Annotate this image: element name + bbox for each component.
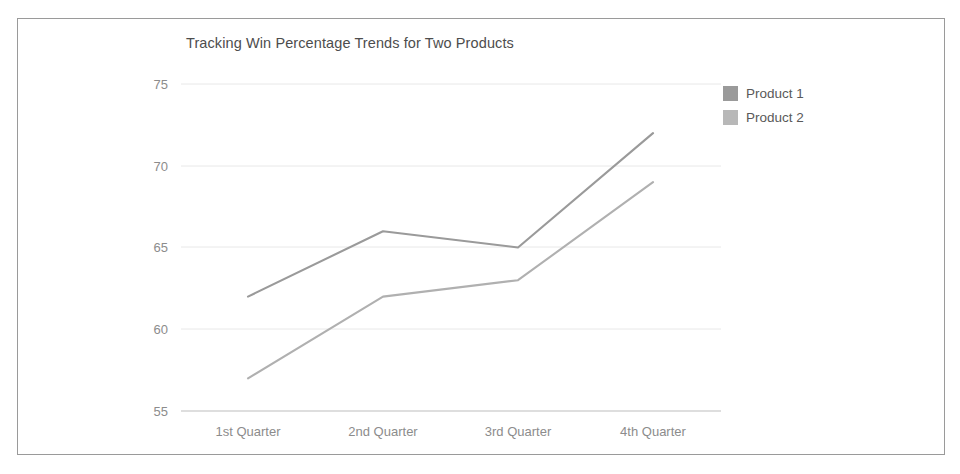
legend-item-product-1[interactable]: Product 1 [723, 81, 893, 105]
chart-legend: Product 1 Product 2 [723, 81, 893, 129]
data-series-group [248, 133, 653, 378]
chart-container: Tracking Win Percentage Trends for Two P… [17, 18, 945, 455]
legend-item-label: Product 2 [746, 110, 804, 125]
legend-swatch-icon [723, 86, 738, 101]
x-tick-label: 3rd Quarter [485, 424, 552, 439]
y-axis-tick-labels: 75 70 65 60 55 [154, 77, 168, 419]
y-tick-label: 55 [154, 404, 168, 419]
y-tick-label: 75 [154, 77, 168, 92]
x-axis-tick-labels: 1st Quarter 2nd Quarter 3rd Quarter 4th … [215, 424, 686, 439]
gridlines [181, 84, 721, 329]
y-tick-label: 70 [154, 159, 168, 174]
x-tick-label: 2nd Quarter [348, 424, 418, 439]
series-line-product-2 [248, 182, 653, 378]
series-line-product-1 [248, 133, 653, 297]
legend-item-label: Product 1 [746, 86, 804, 101]
legend-item-product-2[interactable]: Product 2 [723, 105, 893, 129]
legend-swatch-icon [723, 110, 738, 125]
y-tick-label: 60 [154, 322, 168, 337]
x-tick-label: 1st Quarter [215, 424, 281, 439]
x-tick-label: 4th Quarter [620, 424, 686, 439]
y-tick-label: 65 [154, 240, 168, 255]
